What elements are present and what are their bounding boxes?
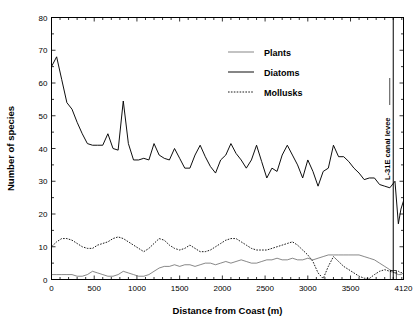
- chart-background: [0, 0, 418, 324]
- x-tick-label: 2500: [256, 284, 274, 293]
- y-tick-label: 30: [39, 177, 48, 186]
- x-tick-label: 3500: [342, 284, 360, 293]
- y-tick-label: 80: [39, 14, 48, 23]
- x-tick-label: 0: [49, 284, 54, 293]
- y-tick-label: 0: [43, 276, 48, 285]
- levee-label: L-31E canal levee: [383, 117, 392, 180]
- y-axis-tick-labels: 01020304050607080: [39, 14, 48, 285]
- x-tick-label: 4120: [395, 284, 413, 293]
- x-axis-title: Distance from Coast (m): [173, 305, 283, 316]
- y-tick-label: 10: [39, 243, 48, 252]
- species-distance-line-chart: 05001000150020002500300035004120 0102030…: [0, 0, 418, 324]
- y-tick-label: 40: [39, 145, 48, 154]
- legend-label-mollusks: Mollusks: [264, 88, 303, 98]
- x-tick-label: 1500: [171, 284, 189, 293]
- y-tick-label: 70: [39, 46, 48, 55]
- x-tick-label: 500: [88, 284, 102, 293]
- x-tick-label: 3000: [299, 284, 317, 293]
- chart-figure: 05001000150020002500300035004120 0102030…: [0, 0, 418, 324]
- y-axis-title: Number of species: [5, 106, 16, 191]
- y-tick-label: 60: [39, 79, 48, 88]
- x-tick-label: 2000: [213, 284, 231, 293]
- legend-label-plants: Plants: [264, 48, 291, 58]
- x-tick-label: 1000: [128, 284, 146, 293]
- y-tick-label: 50: [39, 112, 48, 121]
- legend-label-diatoms: Diatoms: [264, 68, 300, 78]
- y-tick-label: 20: [39, 210, 48, 219]
